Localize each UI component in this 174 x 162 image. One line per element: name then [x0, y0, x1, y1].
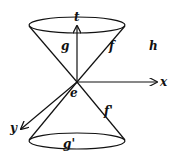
future-cone-left-edge: [29, 26, 77, 82]
event-label: e: [70, 86, 78, 100]
exterior-label: h: [149, 39, 158, 53]
past-interior-label: g': [63, 137, 75, 151]
light-cone-diagram: t x y e g f g' f' h: [0, 0, 174, 162]
t-axis-label: t: [74, 10, 80, 24]
future-cone-right-edge: [77, 26, 125, 82]
future-surface-label: f: [108, 39, 116, 53]
x-axis-label: x: [159, 75, 168, 89]
past-cone-right-edge: [77, 82, 125, 140]
past-cone-rim: [29, 133, 125, 149]
y-axis-label: y: [9, 121, 18, 135]
future-interior-label: g: [61, 39, 69, 53]
past-surface-label: f': [103, 104, 113, 118]
y-axis: [21, 82, 77, 129]
